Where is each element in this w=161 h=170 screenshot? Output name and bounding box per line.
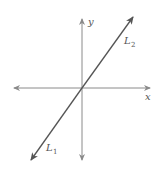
coordinate-diagram: y x L 2 L 1 — [0, 0, 161, 170]
line-l2 — [82, 17, 133, 88]
x-axis-label: x — [145, 91, 151, 102]
label-l1: L — [45, 142, 53, 153]
label-l2: L — [123, 35, 131, 46]
label-l1-subscript: 1 — [53, 148, 57, 156]
y-axis-label: y — [87, 16, 94, 27]
label-l2-subscript: 2 — [131, 41, 135, 49]
